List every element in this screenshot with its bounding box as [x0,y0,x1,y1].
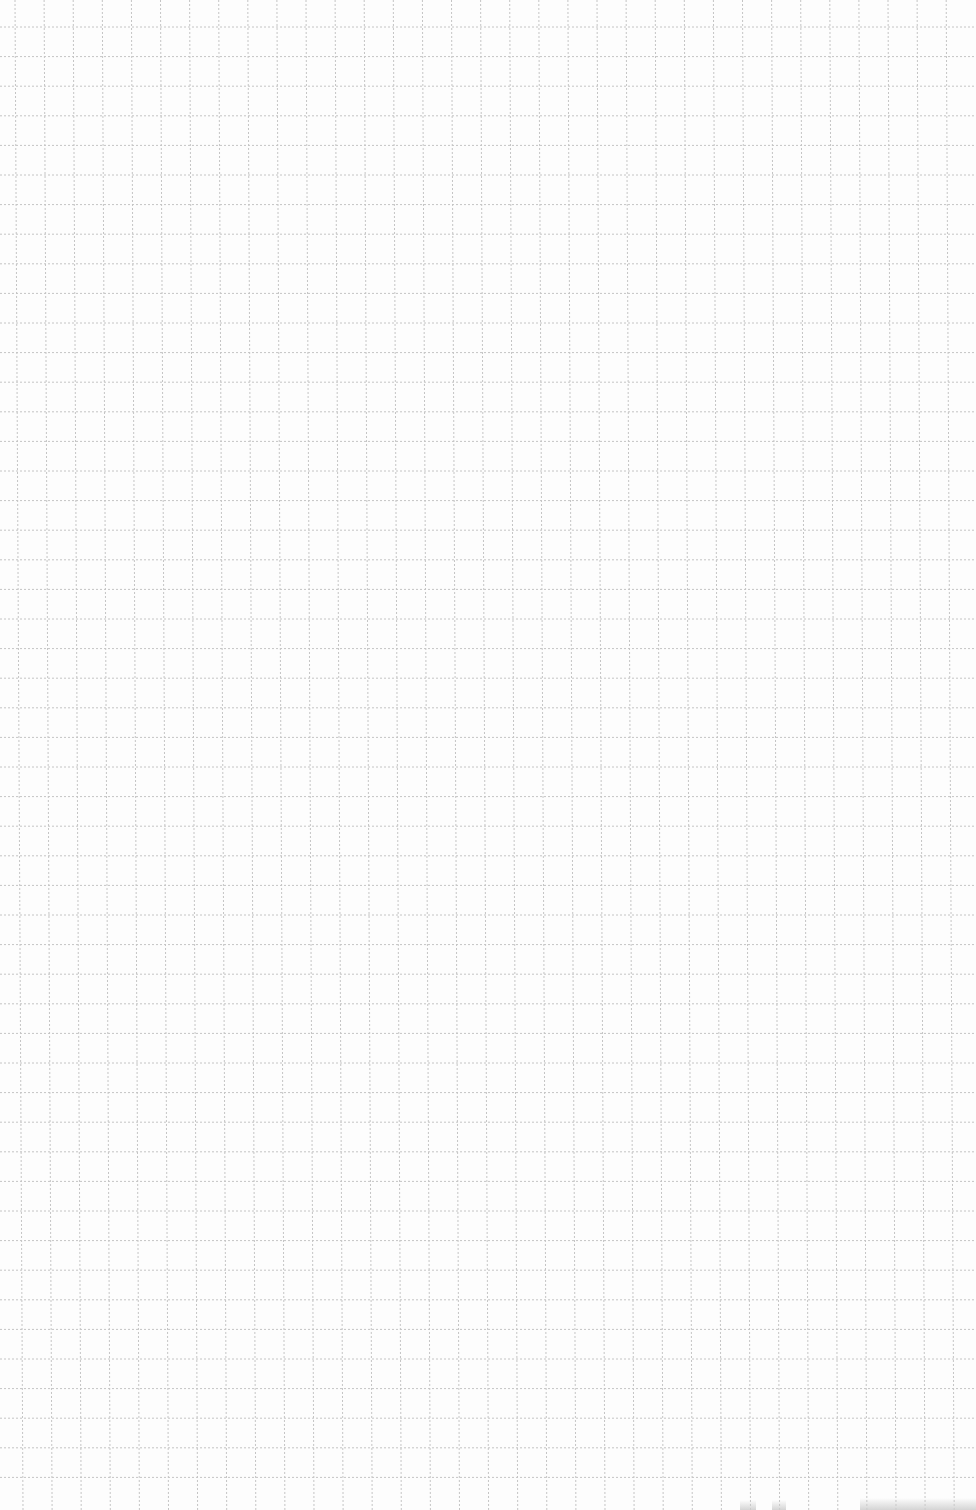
grid-vertical-line [655,0,663,1510]
grid-vertical-line [684,0,692,1510]
grid-vertical-line [597,0,605,1510]
grid-vertical-line [772,0,780,1510]
grid-vertical-line [248,0,256,1510]
grid-vertical-line [131,0,139,1510]
grid-vertical-line [102,0,110,1510]
grid-vertical-line [888,0,896,1510]
grid-vertical-line [73,0,81,1510]
grid-vertical-line [422,0,430,1510]
grid-vertical-line [946,0,954,1510]
grid-vertical-line [335,0,343,1510]
grid-vertical-line [568,0,576,1510]
scan-smudge [860,1498,976,1510]
grid-vertical-line [626,0,634,1510]
grid-vertical-line [713,0,721,1510]
grid-lines [0,0,976,1510]
grid-vertical-line [393,0,401,1510]
graph-paper-sheet [0,0,976,1510]
scan-smudge [740,1500,756,1510]
grid-vertical-line [539,0,547,1510]
grid-vertical-line [277,0,285,1510]
grid-vertical-line [917,0,925,1510]
grid-vertical-line [743,0,751,1510]
grid-vertical-line [452,0,460,1510]
grid-vertical-line [830,0,838,1510]
grid-vertical-line [801,0,809,1510]
grid-vertical-line [481,0,489,1510]
grid-vertical-line [859,0,867,1510]
grid-vertical-line [15,0,23,1510]
grid-vertical-line [44,0,52,1510]
grid-vertical-line [161,0,169,1510]
grid-vertical-line [219,0,227,1510]
grid-vertical-line [510,0,518,1510]
scan-smudge [772,1500,786,1510]
grid-vertical-line [190,0,198,1510]
grid-vertical-line [364,0,372,1510]
grid-vertical-line [306,0,314,1510]
